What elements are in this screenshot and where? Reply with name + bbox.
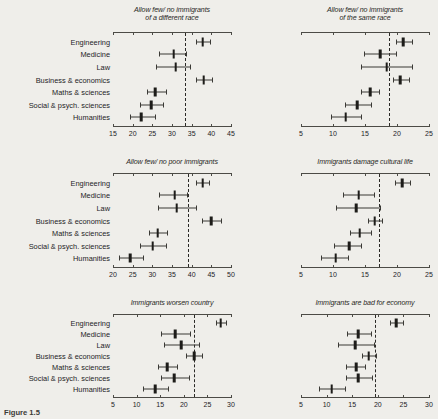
axis-tick-top <box>231 173 232 176</box>
axis-tick-top <box>429 314 430 317</box>
data-point-marker <box>373 216 376 225</box>
confidence-interval-cap <box>368 218 369 223</box>
confidence-interval-cap <box>196 77 197 82</box>
data-point-marker <box>174 62 177 71</box>
data-point-marker <box>401 178 404 187</box>
axis-top-line <box>113 314 231 315</box>
figure-container: EngineeringMedicineLawBusiness & economi… <box>0 0 438 419</box>
axis-tick-label: 5 <box>299 130 303 137</box>
category-label-6: Social & psych. sciences <box>29 374 110 383</box>
axis-tick-top <box>365 173 366 176</box>
category-label-3: Law <box>96 340 110 349</box>
axis-tick-top <box>231 32 232 35</box>
reference-line <box>389 33 390 126</box>
confidence-interval-cap <box>361 90 362 95</box>
data-point-marker <box>357 329 360 338</box>
category-label-2: Medicine <box>80 191 110 200</box>
axis-tick-label: 20 <box>374 401 382 408</box>
axis-tick-label: 25 <box>148 130 156 137</box>
category-label-2: Medicine <box>80 50 110 59</box>
chart-panel-5: Immigrants worsen country51015202530 <box>113 299 231 416</box>
data-point-marker <box>154 88 157 97</box>
axis-tick-bottom <box>333 265 334 269</box>
axis-tick-top <box>327 314 328 317</box>
axis-tick-bottom <box>152 124 153 128</box>
confidence-interval-cap <box>186 52 187 57</box>
confidence-interval-cap <box>348 256 349 261</box>
confidence-interval-cap <box>130 115 131 120</box>
panel-title: Immigrants damage cultural life <box>301 158 429 166</box>
confidence-interval-cap <box>361 64 362 69</box>
axis-tick-top <box>172 173 173 176</box>
axis-tick-label: 30 <box>425 401 433 408</box>
axis-tick-top <box>301 314 302 317</box>
confidence-interval-cap <box>156 64 157 69</box>
confidence-interval-cap <box>410 180 411 185</box>
confidence-interval-cap <box>216 320 217 325</box>
confidence-interval-cap <box>409 77 410 82</box>
axis-tick-bottom <box>397 265 398 269</box>
confidence-interval-cap <box>412 39 413 44</box>
axis-tick-top <box>397 32 398 35</box>
data-point-marker <box>399 75 402 84</box>
axis-tick-top <box>365 32 366 35</box>
data-point-marker <box>355 203 358 212</box>
confidence-interval-cap <box>166 243 167 248</box>
confidence-interval-cap <box>177 365 178 370</box>
axis-tick-label: 25 <box>203 401 211 408</box>
axis-tick-top <box>333 32 334 35</box>
confidence-interval-cap <box>364 52 365 57</box>
axis-tick-label: 5 <box>299 401 303 408</box>
confidence-interval-cap <box>403 320 404 325</box>
confidence-interval-cap <box>382 218 383 223</box>
axis-tick-bottom <box>192 265 193 269</box>
axis-tick-top <box>429 173 430 176</box>
data-point-marker <box>180 340 183 349</box>
axis-tick-bottom <box>365 265 366 269</box>
axis-tick-label: 50 <box>227 271 235 278</box>
axis-tick-label: 10 <box>133 401 141 408</box>
axis-tick-top <box>192 173 193 176</box>
axis-tick-label: 35 <box>168 271 176 278</box>
axis-tick-bottom <box>352 395 353 399</box>
plot-area: 51015202530 <box>301 314 429 398</box>
axis-tick-bottom <box>231 265 232 269</box>
category-label-1: Engineering <box>71 178 110 187</box>
data-point-marker <box>201 37 204 46</box>
confidence-interval-cap <box>163 102 164 107</box>
axis-tick-label: 30 <box>227 401 235 408</box>
confidence-interval-line <box>156 66 190 67</box>
data-point-marker <box>219 318 222 327</box>
axis-tick-top <box>192 32 193 35</box>
category-label-4: Business & economics <box>36 216 110 225</box>
confidence-interval-cap <box>196 39 197 44</box>
data-point-marker <box>348 241 351 250</box>
axis-tick-bottom <box>231 124 232 128</box>
data-point-marker <box>369 88 372 97</box>
data-point-marker <box>210 216 213 225</box>
chart-panel-6: Immigrants are bad for economy5101520253… <box>301 299 429 416</box>
category-label-6: Social & psych. sciences <box>29 100 110 109</box>
confidence-interval-cap <box>379 90 380 95</box>
confidence-interval-cap <box>396 52 397 57</box>
category-label-6: Social & psych. sciences <box>29 241 110 250</box>
axis-tick-bottom <box>211 265 212 269</box>
confidence-interval-cap <box>159 193 160 198</box>
axis-tick-bottom <box>403 395 404 399</box>
category-label-7: Humanities <box>73 385 110 394</box>
confidence-interval-cap <box>189 376 190 381</box>
confidence-interval-cap <box>372 376 373 381</box>
panel-title: Immigrants worsen country <box>113 299 231 307</box>
axis-tick-top <box>403 314 404 317</box>
panel-title: Allow few/ no poor immigrants <box>113 158 231 166</box>
axis-tick-bottom <box>172 124 173 128</box>
chart-panel-1: Allow few/ no immigrants of a different … <box>113 6 231 145</box>
panel-title: Allow few/ no immigrants of the same rac… <box>301 6 429 23</box>
axis-tick-bottom <box>429 395 430 399</box>
confidence-interval-cap <box>187 193 188 198</box>
axis-tick-bottom <box>365 124 366 128</box>
category-label-3: Law <box>96 203 110 212</box>
confidence-interval-cap <box>334 243 335 248</box>
axis-tick-top <box>160 314 161 317</box>
axis-tick-label: 25 <box>399 401 407 408</box>
